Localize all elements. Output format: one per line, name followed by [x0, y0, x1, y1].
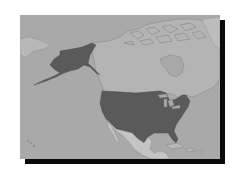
north-america-map: [20, 15, 220, 159]
map-graphic: [20, 15, 220, 159]
